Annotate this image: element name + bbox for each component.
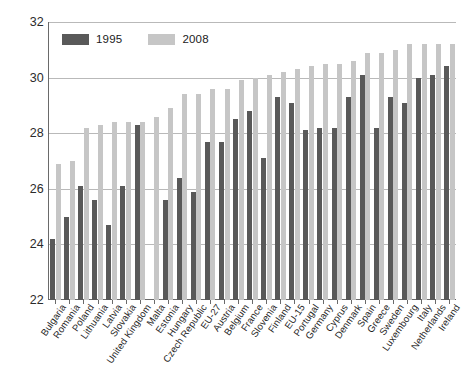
legend: 19952008	[62, 33, 209, 45]
bar-2008	[267, 75, 272, 300]
bar-1995	[444, 66, 449, 300]
bar-2008	[182, 94, 187, 300]
y-axis-tick-label: 28	[2, 126, 44, 140]
y-axis-tick-label: 32	[2, 15, 44, 29]
bar-group	[388, 22, 399, 300]
bar-2008	[84, 128, 89, 300]
bar-2008	[450, 44, 455, 300]
bar-group	[149, 22, 160, 300]
bar-group	[444, 22, 455, 300]
bar-2008	[253, 78, 258, 300]
bar-2008	[365, 53, 370, 300]
bar-1995	[332, 128, 337, 300]
bar-1995	[50, 239, 55, 300]
bar-group	[191, 22, 202, 300]
bar-group	[416, 22, 427, 300]
bar-group	[135, 22, 146, 300]
bar-2008	[168, 108, 173, 300]
bar-group	[247, 22, 258, 300]
bar-2008	[436, 44, 441, 300]
bar-group	[360, 22, 371, 300]
bar-1995	[360, 75, 365, 300]
bar-group	[233, 22, 244, 300]
bar-2008	[56, 164, 61, 300]
bar-2008	[154, 117, 159, 300]
legend-item-1995: 1995	[62, 33, 122, 45]
legend-label: 2008	[182, 33, 208, 45]
bar-1995	[374, 128, 379, 300]
bar-1995	[177, 178, 182, 300]
bar-1995	[219, 142, 224, 300]
bar-2008	[112, 122, 117, 300]
bar-1995	[416, 78, 421, 300]
bar-group	[219, 22, 230, 300]
bar-group	[303, 22, 314, 300]
y-axis-tick-label: 30	[2, 71, 44, 85]
y-axis-tick-label: 22	[2, 293, 44, 307]
bar-1995	[247, 111, 252, 300]
bar-group	[120, 22, 131, 300]
bar-1995	[191, 192, 196, 300]
bar-2008	[140, 122, 145, 300]
bar-1995	[388, 97, 393, 300]
bar-2008	[351, 61, 356, 300]
bar-2008	[337, 64, 342, 300]
bar-group	[50, 22, 61, 300]
bar-group	[64, 22, 75, 300]
bar-1995	[120, 186, 125, 300]
legend-swatch-2008	[148, 34, 175, 45]
bar-group	[332, 22, 343, 300]
bar-1995	[78, 186, 83, 300]
bar-1995	[402, 103, 407, 300]
bar-group	[106, 22, 117, 300]
bar-2008	[225, 89, 230, 300]
bar-group	[78, 22, 89, 300]
x-axis-labels: BulgariaRomaniaPolandLithuaniaLatviaSlov…	[48, 302, 464, 373]
bar-1995	[317, 128, 322, 300]
y-axis-tick-label: 24	[2, 237, 44, 251]
legend-swatch-1995	[62, 34, 89, 45]
bar-1995	[135, 125, 140, 300]
bar-group	[317, 22, 328, 300]
y-axis: 222426283032	[0, 22, 44, 300]
bar-1995	[106, 225, 111, 300]
bar-2008	[295, 69, 300, 300]
bar-1995	[289, 103, 294, 300]
legend-item-2008: 2008	[148, 33, 208, 45]
bar-group	[374, 22, 385, 300]
bar-chart: 222426283032 BulgariaRomaniaPolandLithua…	[0, 0, 464, 373]
bar-group	[261, 22, 272, 300]
bar-1995	[261, 158, 266, 300]
bar-1995	[64, 217, 69, 300]
bar-group	[275, 22, 286, 300]
y-axis-tick-label: 26	[2, 182, 44, 196]
bar-2008	[323, 64, 328, 300]
bar-2008	[126, 122, 131, 300]
bar-group	[430, 22, 441, 300]
bar-1995	[346, 97, 351, 300]
bar-group	[289, 22, 300, 300]
legend-label: 1995	[96, 33, 122, 45]
bar-1995	[275, 97, 280, 300]
bar-2008	[379, 53, 384, 300]
bar-1995	[205, 142, 210, 300]
bar-1995	[303, 130, 308, 300]
bar-2008	[239, 80, 244, 300]
bar-1995	[430, 75, 435, 300]
bar-group	[163, 22, 174, 300]
bar-2008	[281, 72, 286, 300]
bar-2008	[196, 94, 201, 300]
bar-2008	[210, 89, 215, 300]
bar-group	[92, 22, 103, 300]
bar-group	[205, 22, 216, 300]
bar-1995	[163, 200, 168, 300]
bar-2008	[422, 44, 427, 300]
bars-layer	[48, 22, 456, 300]
bar-2008	[407, 44, 412, 300]
bar-2008	[309, 66, 314, 300]
bar-2008	[393, 50, 398, 300]
bar-1995	[92, 200, 97, 300]
bar-2008	[98, 125, 103, 300]
bar-1995	[233, 119, 238, 300]
bar-group	[177, 22, 188, 300]
